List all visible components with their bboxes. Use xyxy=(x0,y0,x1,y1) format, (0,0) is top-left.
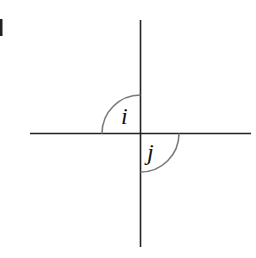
angle-label-j: j xyxy=(144,139,154,165)
edge-fragment-mark xyxy=(0,19,3,36)
intersecting-lines-diagram: i j xyxy=(0,0,256,258)
angle-label-i: i xyxy=(121,103,128,129)
